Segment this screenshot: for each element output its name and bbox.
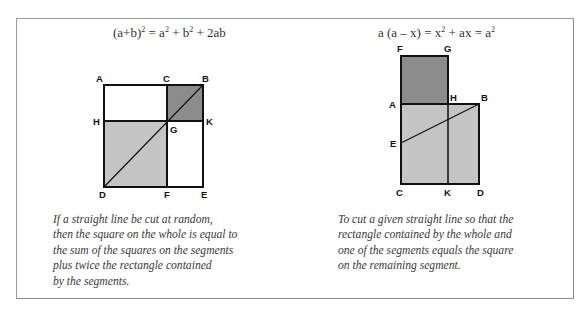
point-label-K: K [444, 187, 451, 198]
point-label-C: C [163, 73, 170, 84]
caption-line: one of the segments equals the square [338, 243, 513, 258]
caption-line: the sum of the squares on the segments [53, 243, 237, 258]
point-label-D: D [99, 189, 106, 200]
point-label-B: B [481, 92, 488, 103]
point-label-G: G [444, 43, 451, 54]
point-label-D: D [477, 187, 484, 198]
right-figure: F G A H B E C K D [389, 43, 488, 198]
point-label-H: H [93, 116, 100, 127]
point-label-G: G [170, 124, 177, 135]
point-label-F: F [397, 43, 403, 54]
caption-line: then the square on the whole is equal to [53, 227, 237, 242]
point-label-E: E [201, 189, 207, 200]
point-label-K: K [206, 116, 213, 127]
point-label-A: A [389, 99, 396, 110]
caption-line: on the remaining segment. [338, 258, 513, 273]
point-label-E: E [390, 138, 396, 149]
point-label-H: H [450, 92, 457, 103]
point-label-C: C [396, 187, 403, 198]
point-label-F: F [164, 189, 170, 200]
caption-line: If a straight line be cut at random, [53, 212, 237, 227]
caption-line: plus twice the rectangle contained [53, 258, 237, 273]
caption-line: To cut a given straight line so that the [338, 212, 513, 227]
caption-line: by the segments. [53, 274, 237, 289]
point-label-A: A [96, 73, 103, 84]
point-label-B: B [202, 73, 209, 84]
left-figure: A C B H G K D F E [93, 73, 213, 200]
caption-line: rectangle contained by the whole and [338, 227, 513, 242]
caption-binomial-theorem: If a straight line be cut at random, the… [53, 212, 237, 289]
square-ABDC [401, 104, 479, 184]
caption-golden-section: To cut a given straight line so that the… [338, 212, 513, 274]
square-FGHA [401, 56, 448, 104]
